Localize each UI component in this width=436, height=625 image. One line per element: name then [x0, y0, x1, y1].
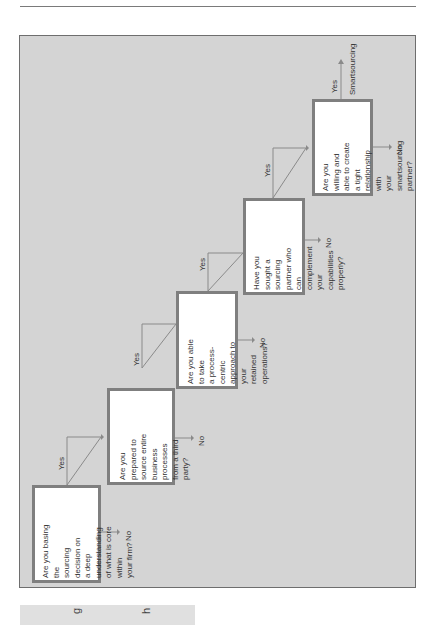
- bottom-strip: g h: [20, 605, 195, 625]
- question-box-4: Have you sought a sourcing partner who c…: [243, 198, 305, 295]
- no-label-1: No: [124, 531, 133, 541]
- yes-label-1: Yes: [57, 457, 66, 470]
- strip-letter-h: h: [140, 608, 152, 614]
- yes-label-2: Yes: [132, 353, 141, 366]
- strip-letter-g: g: [70, 608, 82, 614]
- no-label-2: No: [197, 436, 206, 446]
- no-label-5: No: [395, 145, 404, 155]
- question-text-2: Are you prepared to source entire busine…: [118, 426, 192, 480]
- outcome-label: Smartsourcing: [348, 43, 357, 95]
- yes-label-3: Yes: [198, 258, 207, 271]
- question-box-1: Are you basing the sourcing decision on …: [32, 485, 101, 583]
- yes-label-4: Yes: [263, 164, 272, 177]
- no-label-3: No: [258, 338, 267, 348]
- question-text-1: Are you basing the sourcing decision on …: [41, 521, 136, 578]
- no-label-4: No: [324, 238, 333, 248]
- yes-label-5: Yes: [330, 80, 339, 93]
- question-box-2: Are you prepared to source entire busine…: [107, 388, 175, 485]
- question-box-3: Are you able to take a process-centric a…: [176, 291, 238, 389]
- question-box-5: Are you willing and able to create a tig…: [312, 99, 373, 196]
